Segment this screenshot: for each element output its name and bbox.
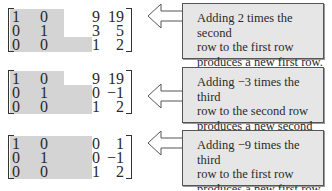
right-bracket: [126, 8, 132, 52]
matrix-cell: 1: [64, 37, 100, 52]
explanation-box-step-1: Adding 2 times the second row to the fir…: [182, 3, 324, 59]
note-line: Adding −9 times the third: [197, 138, 323, 167]
matrix-step-1: 1 0 9 19 0 1 3 5 0 0 1 2: [2, 6, 138, 54]
explanation-box-step-3: Adding −9 times the third row to the fir…: [182, 130, 324, 186]
note-line: row to the first row: [197, 40, 323, 55]
note-line: Adding −3 times the third: [197, 75, 323, 104]
note-line: produces a new first row.: [197, 182, 323, 191]
right-bracket: [126, 135, 132, 179]
note-line: row to the second row: [197, 104, 323, 119]
right-bracket: [126, 70, 132, 114]
explanation-text: Adding −9 times the third row to the fir…: [197, 138, 323, 190]
left-arrow-icon: [147, 83, 185, 109]
left-arrow-icon: [147, 3, 185, 29]
explanation-text: Adding 2 times the second row to the fir…: [197, 11, 323, 69]
matrix-cell: 2: [98, 164, 124, 179]
matrix-cell: 1: [64, 99, 100, 114]
matrix-step-2: 1 0 9 19 0 1 0 −1 0 0 1 2: [2, 68, 138, 116]
matrix-cell: 2: [98, 99, 124, 114]
matrix-cell: 1: [64, 164, 100, 179]
note-line: Adding 2 times the second: [197, 11, 323, 40]
matrix-cell: 0: [36, 164, 52, 179]
matrix-cell: 0: [36, 37, 52, 52]
matrix-cell: 0: [12, 37, 22, 52]
matrix-cell: 0: [36, 99, 52, 114]
note-line: row to the first row: [197, 167, 323, 182]
matrix-cell: 0: [12, 164, 22, 179]
left-arrow-icon: [147, 130, 185, 156]
matrix-cell: 0: [12, 99, 22, 114]
explanation-box-step-2: Adding −3 times the third row to the sec…: [182, 67, 324, 123]
matrix-step-3: 1 0 0 1 0 1 0 −1 0 0 1 2: [2, 133, 138, 181]
matrix-cell: 2: [98, 37, 124, 52]
